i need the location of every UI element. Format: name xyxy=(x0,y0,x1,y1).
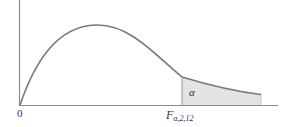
critical-value-label: Fα,2,12 xyxy=(165,108,194,123)
f-distribution-figure: α 0 Fα,2,12 xyxy=(0,0,302,127)
tail-area-label: α xyxy=(189,86,195,98)
critical-value-subscript: α,2,12 xyxy=(173,114,193,123)
origin-label: 0 xyxy=(17,107,23,119)
